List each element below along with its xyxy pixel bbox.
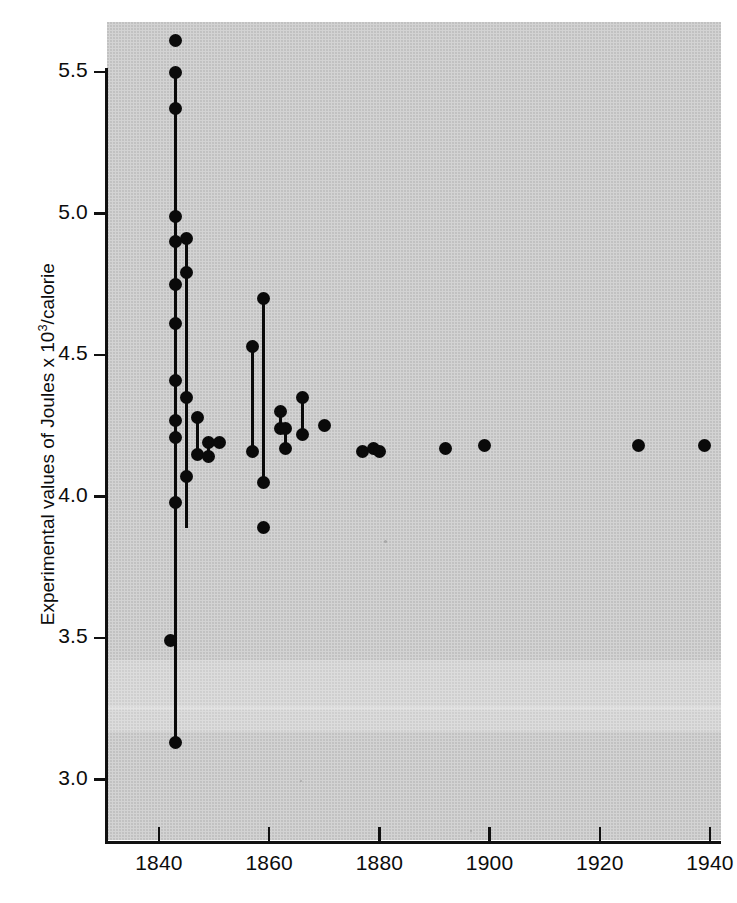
data-point xyxy=(478,439,491,452)
y-tick-5.5 xyxy=(94,71,108,74)
y-tick-3.0 xyxy=(94,778,108,781)
y-tick-label-5.5: 5.5 xyxy=(28,58,88,82)
x-tick-1880 xyxy=(378,827,381,842)
data-point xyxy=(169,496,182,509)
data-point xyxy=(257,292,270,305)
figure-canvas: 3.03.54.04.55.05.5 184018601880190019201… xyxy=(0,0,737,903)
paper-speck-2 xyxy=(300,780,302,782)
data-point xyxy=(373,445,386,458)
data-point xyxy=(169,374,182,387)
range-connector xyxy=(185,239,188,528)
data-point xyxy=(164,634,177,647)
x-tick-1900 xyxy=(488,827,491,842)
range-connector xyxy=(251,347,254,452)
x-tick-label-1920: 1920 xyxy=(560,851,640,875)
y-tick-4.0 xyxy=(94,495,108,498)
data-point xyxy=(169,278,182,291)
x-tick-label-1940: 1940 xyxy=(670,851,737,875)
data-point xyxy=(169,210,182,223)
x-tick-label-1860: 1860 xyxy=(229,851,309,875)
data-point xyxy=(274,405,287,418)
x-tick-1860 xyxy=(268,827,271,842)
plot-area-background xyxy=(107,22,721,840)
x-axis-line xyxy=(105,841,721,844)
y-tick-5.0 xyxy=(94,212,108,215)
data-point xyxy=(318,419,331,432)
y-tick-3.5 xyxy=(94,637,108,640)
range-connector xyxy=(262,298,265,482)
data-point xyxy=(296,428,309,441)
data-point xyxy=(632,439,645,452)
data-point xyxy=(169,431,182,444)
x-tick-1920 xyxy=(599,827,602,842)
data-point xyxy=(246,445,259,458)
data-point xyxy=(296,391,309,404)
y-axis-title: Experimental values of Joules x 103/calo… xyxy=(35,114,59,774)
data-point xyxy=(698,439,711,452)
x-tick-1940 xyxy=(709,827,712,842)
y-axis-line xyxy=(105,68,108,844)
x-tick-label-1880: 1880 xyxy=(339,851,419,875)
data-point xyxy=(180,391,193,404)
data-point xyxy=(169,66,182,79)
data-point xyxy=(439,442,452,455)
x-tick-label-1900: 1900 xyxy=(450,851,530,875)
x-tick-label-1840: 1840 xyxy=(119,851,199,875)
y-tick-4.5 xyxy=(94,354,108,357)
data-point xyxy=(169,414,182,427)
paper-speck-1 xyxy=(384,540,387,543)
x-tick-1840 xyxy=(158,827,161,842)
data-point xyxy=(191,411,204,424)
data-point xyxy=(257,476,270,489)
paper-speck-3 xyxy=(470,830,472,832)
